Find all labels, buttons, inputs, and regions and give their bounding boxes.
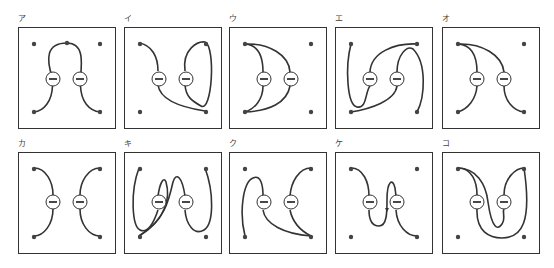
field-lines bbox=[124, 152, 222, 254]
field-line bbox=[80, 209, 100, 236]
field-line bbox=[245, 86, 263, 112]
point-dot bbox=[456, 167, 460, 171]
point-dot bbox=[98, 235, 102, 239]
negative-charge-icon bbox=[390, 195, 404, 209]
negative-charge-icon bbox=[470, 72, 484, 86]
panel-label: ケ bbox=[335, 139, 343, 149]
panel-label: カ bbox=[18, 139, 26, 149]
point-dot bbox=[309, 235, 313, 239]
field-line bbox=[290, 168, 311, 196]
point-dot bbox=[32, 235, 36, 239]
panel-label: ア bbox=[18, 14, 26, 24]
field-line bbox=[504, 168, 524, 195]
point-dot bbox=[243, 235, 247, 239]
negative-charge-icon bbox=[363, 72, 377, 86]
field-line bbox=[351, 168, 369, 196]
panel-label: キ bbox=[124, 139, 132, 149]
point-dot bbox=[415, 42, 419, 46]
field-line bbox=[34, 168, 53, 195]
negative-charge-icon bbox=[390, 72, 404, 86]
point-dot bbox=[243, 110, 247, 114]
point-dot bbox=[415, 110, 419, 114]
field-line bbox=[139, 43, 158, 71]
point-dot bbox=[456, 235, 460, 239]
point-dot bbox=[349, 167, 353, 171]
panel-label: イ bbox=[124, 14, 132, 24]
point-dot bbox=[349, 42, 353, 46]
field-line bbox=[81, 86, 101, 112]
field-lines bbox=[18, 27, 116, 129]
negative-charge-icon bbox=[73, 195, 87, 209]
point-dot bbox=[98, 42, 102, 46]
point-dot bbox=[349, 110, 353, 114]
field-line bbox=[245, 44, 263, 72]
point-dot bbox=[98, 167, 102, 171]
field-line bbox=[396, 210, 417, 236]
panel-label: オ bbox=[442, 14, 450, 24]
point-dot bbox=[98, 110, 102, 114]
negative-charge-icon bbox=[73, 72, 87, 86]
field-line bbox=[458, 44, 504, 72]
field-line bbox=[34, 209, 53, 236]
point-dot bbox=[204, 235, 208, 239]
field-line bbox=[458, 168, 477, 195]
point-dot bbox=[138, 110, 142, 114]
negative-charge-icon bbox=[257, 72, 271, 86]
point-dot bbox=[138, 167, 142, 171]
negative-charge-icon bbox=[363, 195, 377, 209]
negative-charge-icon bbox=[257, 195, 271, 209]
negative-charge-icon bbox=[152, 72, 166, 86]
field-line bbox=[458, 44, 477, 72]
panel-label: ウ bbox=[229, 14, 237, 24]
field-lines bbox=[335, 27, 433, 129]
field-line bbox=[158, 85, 205, 111]
point-dot bbox=[138, 235, 142, 239]
field-lines bbox=[229, 152, 327, 254]
field-line bbox=[34, 86, 53, 112]
point-dot bbox=[32, 110, 36, 114]
negative-charge-icon bbox=[497, 195, 511, 209]
negative-charge-icon bbox=[179, 72, 193, 86]
field-lines bbox=[124, 27, 222, 129]
point-dot bbox=[309, 167, 313, 171]
field-line bbox=[290, 210, 311, 236]
negative-charge-icon bbox=[179, 195, 193, 209]
point-dot bbox=[32, 42, 36, 46]
point-dot bbox=[243, 167, 247, 171]
point-dot bbox=[204, 167, 208, 171]
field-line bbox=[351, 86, 397, 112]
point-dot bbox=[456, 42, 460, 46]
point-dot bbox=[456, 110, 460, 114]
point-dot bbox=[204, 110, 208, 114]
point-dot bbox=[522, 42, 526, 46]
negative-charge-icon bbox=[46, 195, 60, 209]
field-line bbox=[245, 44, 290, 72]
point-dot bbox=[65, 41, 69, 45]
point-dot bbox=[204, 42, 208, 46]
panel-label: ク bbox=[229, 139, 237, 149]
point-dot bbox=[522, 167, 526, 171]
panel-label: コ bbox=[442, 139, 450, 149]
point-dot bbox=[309, 110, 313, 114]
field-lines bbox=[442, 27, 540, 129]
field-lines bbox=[442, 152, 540, 254]
arrow-icon bbox=[385, 208, 389, 212]
point-dot bbox=[522, 110, 526, 114]
point-dot bbox=[309, 42, 313, 46]
field-line bbox=[504, 86, 524, 112]
field-line bbox=[80, 168, 100, 195]
point-dot bbox=[349, 235, 353, 239]
point-dot bbox=[522, 235, 526, 239]
negative-charge-icon bbox=[470, 195, 484, 209]
negative-charge-icon bbox=[284, 72, 298, 86]
point-dot bbox=[415, 235, 419, 239]
negative-charge-icon bbox=[284, 195, 298, 209]
field-lines bbox=[335, 152, 433, 254]
field-lines bbox=[18, 152, 116, 254]
point-dot bbox=[415, 167, 419, 171]
point-dot bbox=[138, 42, 142, 46]
point-dot bbox=[243, 42, 247, 46]
negative-charge-icon bbox=[152, 195, 166, 209]
point-dot bbox=[32, 167, 36, 171]
panel-label: エ bbox=[335, 14, 343, 24]
